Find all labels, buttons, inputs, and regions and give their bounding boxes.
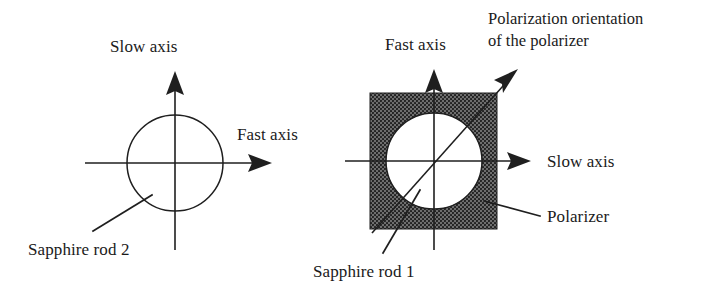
- polarization-orientation-arrowhead: [494, 69, 518, 93]
- sapphire-rod-2-leader-line: [93, 195, 152, 231]
- sapphire-rod-2-label: Sapphire rod 2: [28, 240, 130, 259]
- sapphire-rod-1-label: Sapphire rod 1: [313, 262, 415, 281]
- optical-orientation-figure: Slow axis Fast axis Sapphire rod 2 Fa: [0, 0, 719, 288]
- left-vertical-axis-label: Slow axis: [110, 37, 178, 56]
- figure-canvas: Slow axis Fast axis Sapphire rod 2 Fa: [0, 0, 719, 288]
- left-horizontal-axis-label: Fast axis: [237, 125, 298, 144]
- polarization-orientation-label-line1: Polarization orientation: [488, 9, 643, 28]
- right-vertical-axis-label: Fast axis: [385, 35, 446, 54]
- left-diagram-group: Slow axis Fast axis Sapphire rod 2: [28, 37, 298, 259]
- polarizer-label: Polarizer: [547, 207, 609, 226]
- right-horizontal-axis-label: Slow axis: [547, 152, 615, 171]
- right-diagram-group: Fast axis Slow axis Polarizer Polarizati…: [313, 9, 643, 281]
- polarization-orientation-label-line2: of the polarizer: [488, 31, 589, 50]
